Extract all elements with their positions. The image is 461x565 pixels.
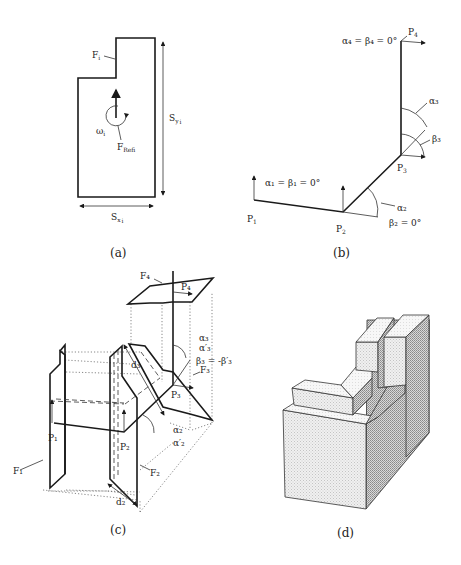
figure-canvas: Fi ωi FRefi Syi Sxi (a): [0, 0, 461, 565]
p2-label: P₂: [120, 442, 130, 452]
p4-direction-arrow: [173, 292, 192, 294]
block-front-face: [283, 410, 366, 509]
face-f4: [128, 278, 213, 304]
p3-direction-arrow: [401, 155, 425, 157]
beta3-leader: [420, 140, 430, 145]
p3-label: P₃: [171, 390, 181, 400]
f1-leader: [20, 460, 43, 470]
panel-a: Fi ωi FRefi Syi Sxi (a): [78, 38, 182, 260]
fref-label: FRefi: [117, 142, 135, 153]
omega-label: ωi: [96, 126, 105, 137]
alpha3-label: α₃: [199, 333, 209, 343]
p4-leader: [401, 36, 407, 41]
panel-d: (d): [283, 315, 429, 540]
caption-b: (b): [333, 246, 350, 260]
pillar-front: [356, 342, 378, 372]
face-label: Fi: [92, 50, 100, 61]
p2-baseline: [343, 212, 378, 217]
alpha3-arc: [401, 108, 427, 127]
f3-leader: [193, 372, 200, 375]
f2-label: F₂: [150, 468, 160, 478]
panel-c: F₁ F₂ F₃ F₄ P₁ P₂ P₃ P₄ d₂ d₃ α₂ α′₂ α₃ …: [13, 271, 232, 537]
f4-label: F₄: [140, 271, 150, 281]
p1-label: P₁: [48, 433, 58, 443]
alpha2-label: α₂: [397, 203, 407, 213]
alpha2-arc: [143, 415, 154, 433]
caption-d: (d): [337, 526, 354, 540]
p4-label: P₄: [181, 282, 191, 292]
caption-a: (a): [110, 246, 127, 260]
beta3-label: β₃: [432, 134, 441, 144]
rotation-arrowhead-icon: [124, 113, 129, 118]
alpha2-leader: [381, 203, 395, 206]
d2-label: d₂: [116, 497, 126, 507]
f3-label: F₃: [200, 365, 210, 375]
caption-c: (c): [110, 523, 126, 537]
p3-extension: [401, 130, 425, 155]
p1-label: P1: [247, 214, 257, 225]
f4-leader: [154, 279, 162, 283]
sx-label: Sxi: [111, 212, 124, 224]
beta2-label: β₂ = 0°: [389, 218, 421, 228]
panel-b: P1 P2 P3 P4 α₁ = β₁ = 0° α₄ = β₄ = 0° β₂…: [247, 27, 441, 260]
alpha3-label: α₃: [429, 96, 439, 106]
back-pillar-front: [384, 337, 406, 387]
alpha2-label: α₂: [173, 425, 183, 435]
fref-leader: [118, 126, 121, 140]
p2-label: P2: [336, 224, 346, 235]
f1-label: F₁: [13, 466, 23, 476]
alpha3-arc: [173, 345, 186, 358]
p4-direction-arrow: [401, 41, 425, 43]
beta3-label: β₃ = -β′₃: [196, 356, 232, 366]
alpha1-beta1-label: α₁ = β₁ = 0°: [265, 178, 320, 188]
alpha3-prime-label: α′₃: [199, 343, 211, 353]
alpha2-arc: [367, 187, 378, 217]
face-leader: [104, 56, 115, 59]
d3-label: d₃: [131, 360, 141, 370]
p4-label: P4: [408, 27, 418, 38]
p3-label: P3: [397, 163, 407, 174]
sy-label: Syi: [169, 113, 182, 125]
alpha2-prime-label: α′₂: [173, 438, 185, 448]
alpha3-leader: [416, 103, 427, 113]
alpha4-beta4-label: α₄ = β₄ = 0°: [342, 36, 397, 46]
skeleton-path-3d: [54, 271, 173, 432]
